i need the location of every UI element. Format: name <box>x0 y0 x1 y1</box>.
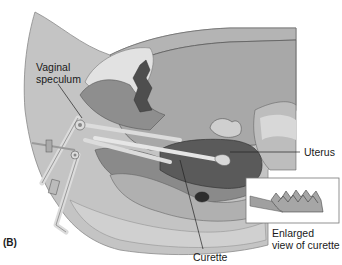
speculum-screw-1 <box>46 140 52 152</box>
rectum-band <box>260 115 296 140</box>
panel-label: (B) <box>3 237 17 248</box>
enlarged-view-label-line2: view of curette <box>272 239 340 251</box>
vaginal-speculum-label: Vaginal speculum <box>36 61 81 85</box>
enlarged-view-label-line1: Enlarged <box>272 227 340 239</box>
dark-mass <box>195 192 209 202</box>
vaginal-speculum-label-line2: speculum <box>36 73 81 85</box>
vaginal-speculum-label-line1: Vaginal <box>36 61 81 73</box>
speculum-pivot-1-center <box>78 123 82 127</box>
speculum-pivot-2-center <box>74 154 77 157</box>
enlarged-view-label: Enlarged view of curette <box>272 227 340 251</box>
curettage-diagram <box>0 0 342 265</box>
uterus-label: Uterus <box>304 146 335 158</box>
curette-label: Curette <box>193 251 227 263</box>
